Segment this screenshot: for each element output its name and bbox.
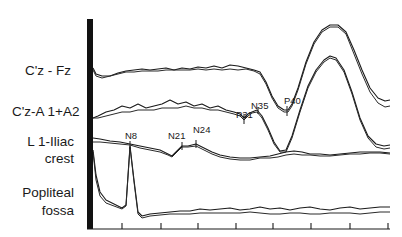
trace-l1-iliac-crest-trial-2 — [93, 142, 390, 160]
waveform-plot: N8 N21 N24 P31 N35 P40 — [0, 0, 402, 237]
trace-c-z-a1-a2-trial-2 — [93, 58, 390, 152]
traces-group — [93, 25, 390, 218]
peak-label-n35: N35 — [251, 100, 268, 111]
trace-l1-iliac-crest-trial-1 — [93, 138, 390, 158]
trace-c-z-fz-trial-1 — [93, 25, 390, 110]
sep-waveform-figure: C'z - Fz C'z-A 1+A2 L 1-Iliac crest Popl… — [0, 0, 402, 237]
trace-c-z-a1-a2-trial-1 — [93, 56, 390, 151]
stimulus-artifact-bar — [87, 19, 93, 229]
peak-label-n8: N8 — [125, 130, 137, 141]
peak-label-p40: P40 — [284, 95, 301, 106]
time-axis — [87, 223, 390, 229]
peak-label-n21: N21 — [168, 130, 185, 141]
peak-label-n24: N24 — [193, 124, 210, 135]
trace-popliteal-fossa-trial-1 — [93, 146, 390, 216]
